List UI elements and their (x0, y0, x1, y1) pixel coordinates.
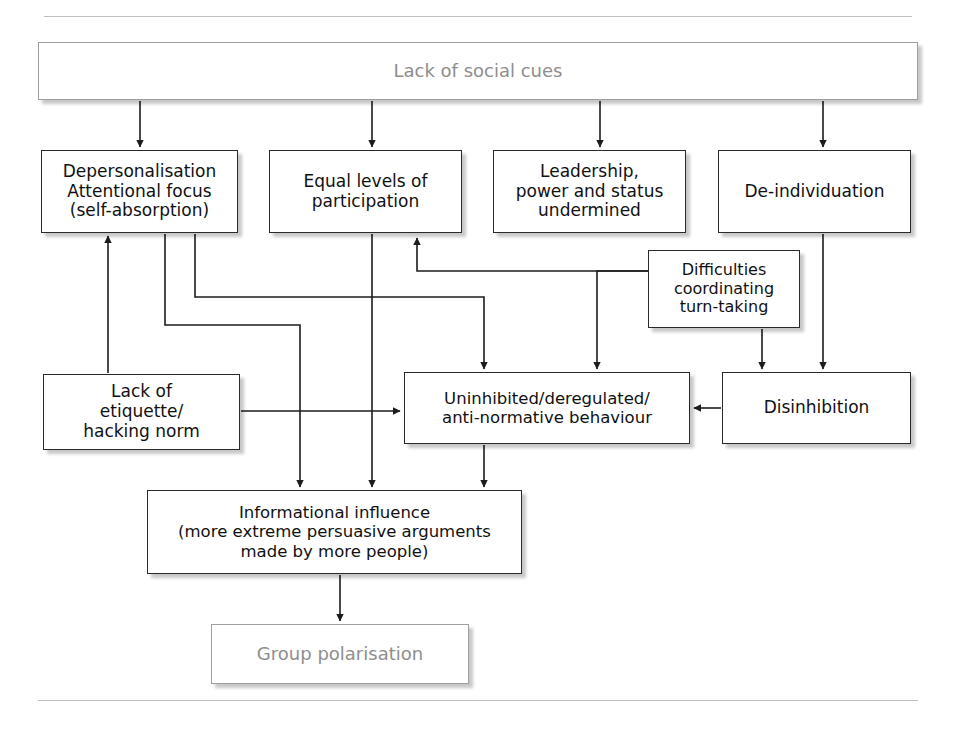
node-disinhibition: Disinhibition (722, 372, 911, 444)
node-label: Uninhibited/deregulated/ anti-normative … (442, 389, 652, 427)
node-informational-influence: Informational influence (more extreme pe… (147, 490, 522, 574)
node-depersonalisation: Depersonalisation Attentional focus (sel… (41, 150, 238, 233)
node-label: Informational influence (more extreme pe… (178, 503, 491, 560)
node-label: Leadership, power and status undermined (516, 162, 664, 221)
node-leadership-power-status-undermined: Leadership, power and status undermined (493, 150, 686, 233)
edge-depersonalisation-to-uninhibited (195, 234, 484, 369)
node-label: Depersonalisation Attentional focus (sel… (63, 162, 217, 221)
node-label: Lack of etiquette/ hacking norm (83, 382, 200, 441)
node-lack-of-social-cues: Lack of social cues (38, 42, 918, 100)
node-group-polarisation: Group polarisation (211, 624, 469, 684)
node-label: Group polarisation (257, 644, 423, 665)
node-label: Lack of social cues (394, 61, 563, 82)
node-label: De-individuation (744, 182, 884, 202)
diagram-canvas: Lack of social cues Depersonalisation At… (0, 0, 955, 734)
node-label: Difficulties coordinating turn-taking (674, 261, 774, 317)
node-difficulties-coordinating-turn-taking: Difficulties coordinating turn-taking (648, 250, 800, 328)
node-uninhibited-deregulated-anti-normative-behaviour: Uninhibited/deregulated/ anti-normative … (404, 372, 690, 444)
node-de-individuation: De-individuation (718, 150, 911, 233)
node-label: Equal levels of participation (304, 172, 428, 211)
top-divider-rule (44, 16, 912, 17)
edge-difficulties-to-leadership (417, 238, 648, 271)
connector-layer (0, 0, 955, 734)
node-equal-levels-of-participation: Equal levels of participation (269, 150, 462, 233)
node-lack-of-etiquette-hacking-norm: Lack of etiquette/ hacking norm (43, 374, 240, 450)
bottom-divider-rule (38, 700, 918, 701)
node-label: Disinhibition (764, 398, 870, 418)
